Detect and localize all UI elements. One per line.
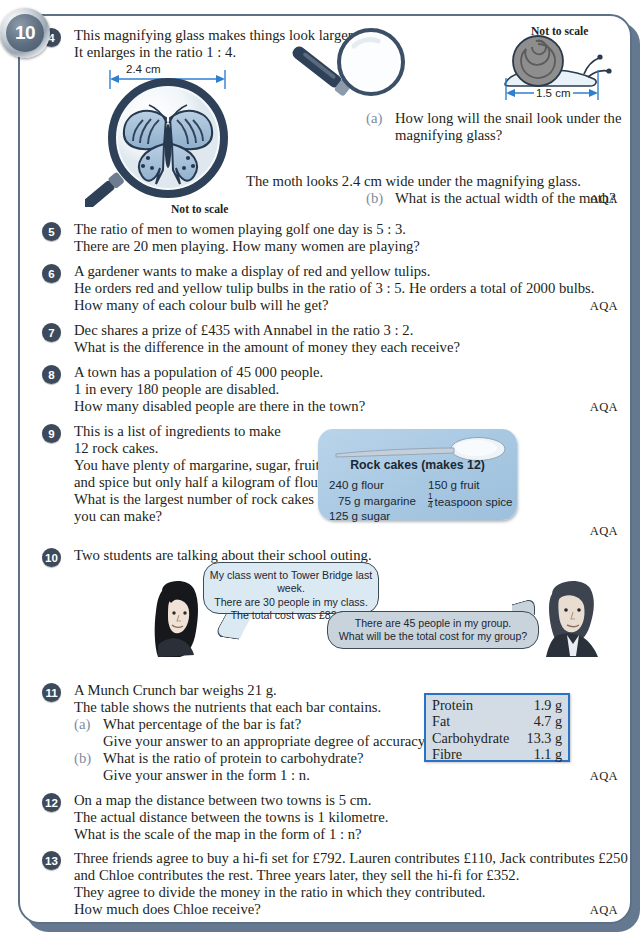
question-6-exam-board: AQA (590, 299, 618, 314)
nutrient-value: 1.9 g (534, 697, 562, 713)
question-11-part-a-label: (a) (74, 716, 90, 733)
recipe-item-fruit: 150 g fruit (428, 477, 513, 493)
question-number-13: 13 (42, 851, 61, 870)
question-13-line-3: They agree to divide the money in the ra… (74, 884, 486, 901)
butterfly-dimension-label: 2.4 cm (126, 63, 161, 75)
boy-portrait (540, 572, 600, 658)
question-12-line-1: On a map the distance between two towns … (74, 792, 371, 809)
question-4-part-b-line-1: What is the actual width of the moth? (395, 190, 616, 207)
recipe-item-spice: 1 4 teaspoon spice (428, 493, 513, 510)
question-11-part-b-line-2: Give your answer in the form 1 : n. (103, 767, 310, 784)
table-row: Protein 1.9 g (426, 697, 568, 713)
question-number-9: 9 (42, 424, 61, 443)
question-9-line-5: What is the largest number of rock cakes (74, 491, 314, 508)
rock-cakes-recipe-card: Rock cakes (makes 12) 240 g flour 75 g m… (318, 429, 517, 520)
question-4-part-a-line-2: magnifying glass? (395, 127, 502, 144)
nutrient-name: Fat (432, 713, 450, 729)
recipe-right-column: 150 g fruit 1 4 teaspoon spice (428, 477, 513, 510)
question-4-part-b-label: (b) (366, 190, 383, 207)
nutrient-name: Carbohydrate (432, 730, 509, 746)
question-9-line-3: You have plenty of margarine, sugar, fru… (74, 457, 320, 474)
question-9-exam-board: AQA (590, 524, 618, 539)
question-6-line-2: He orders red and yellow tulip bulbs in … (74, 280, 594, 297)
question-8-exam-board: AQA (590, 400, 618, 415)
question-9-line-1: This is a list of ingredients to make (74, 423, 281, 440)
recipe-spice-text: teaspoon spice (435, 495, 513, 508)
nutrient-value: 13.3 g (527, 730, 562, 746)
quarter-fraction: 1 4 (428, 493, 433, 510)
question-11-exam-board: AQA (590, 769, 618, 784)
question-4-moth-line: The moth looks 2.4 cm wide under the mag… (246, 173, 581, 190)
question-number-7: 7 (42, 323, 61, 342)
speech-bubble-girl: My class went to Tower Bridge last week.… (203, 562, 379, 614)
question-12-line-3: What is the scale of the map in the form… (74, 826, 362, 843)
question-4-exam-board: AQA (590, 192, 618, 207)
question-11-part-b-line-1: What is the ratio of protein to carbohyd… (103, 750, 364, 767)
recipe-left-column: 240 g flour 75 g margarine 125 g sugar (329, 477, 416, 524)
page-number-label: 10 (6, 14, 44, 52)
page-number-medallion: 10 (0, 8, 50, 58)
recipe-item-sugar: 125 g sugar (329, 508, 416, 524)
question-13-line-1: Three friends agree to buy a hi-fi set f… (74, 850, 628, 867)
question-8-line-2: 1 in every 180 people are disabled. (74, 381, 279, 398)
question-11-part-a-line-2: Give your answer to an appropriate degre… (103, 733, 428, 750)
question-13-line-2: and Chloe contributes the rest. Three ye… (74, 867, 519, 884)
question-5-line-1: The ratio of men to women playing golf o… (74, 221, 406, 238)
nutrient-name: Protein (432, 697, 473, 713)
question-11-line-1: A Munch Crunch bar weighs 21 g. (74, 682, 277, 699)
fraction-numerator: 1 (428, 493, 433, 501)
table-row: Fibre 1.1 g (426, 746, 568, 762)
question-12-line-2: The actual distance between the towns is… (74, 809, 388, 826)
nutrition-table: Protein 1.9 g Fat 4.7 g Carbohydrate 13.… (424, 693, 570, 762)
question-9-line-2: 12 rock cakes. (74, 440, 158, 457)
table-row: Fat 4.7 g (426, 713, 568, 729)
question-number-8: 8 (42, 365, 61, 384)
butterfly-magnifier-figure (85, 62, 265, 207)
snail-not-to-scale-note: Not to scale (531, 25, 588, 38)
bubble-girl-line-1: My class went to Tower Bridge last week. (204, 569, 378, 596)
question-number-6: 6 (42, 264, 61, 283)
recipe-item-flour: 240 g flour (329, 477, 416, 493)
bubble-boy-line-2: What will be the total cost for my group… (328, 630, 538, 643)
question-number-5: 5 (42, 222, 61, 241)
question-7-line-1: Dec shares a prize of £435 with Annabel … (74, 322, 413, 339)
question-6-line-3: How many of each colour bulb will he get… (74, 297, 329, 314)
question-13-line-4: How much does Chloe receive? (74, 901, 261, 918)
question-number-12: 12 (42, 793, 61, 812)
butterfly-not-to-scale-note: Not to scale (171, 203, 228, 216)
recipe-item-margarine: 75 g margarine (329, 493, 416, 509)
bubble-girl-line-2: There are 30 people in my class. (204, 596, 378, 609)
question-number-11: 11 (42, 683, 61, 702)
question-6-line-1: A gardener wants to make a display of re… (74, 263, 431, 280)
fraction-denominator: 4 (428, 501, 433, 510)
question-11-line-2: The table shows the nutrients that each … (74, 699, 381, 716)
girl-portrait (148, 575, 206, 658)
question-4-line-2: It enlarges in the ratio 1 : 4. (74, 44, 236, 61)
question-11-part-a-line-1: What percentage of the bar is fat? (103, 716, 301, 733)
nutrient-value: 1.1 g (534, 746, 562, 762)
question-9-line-4: and spice but only half a kilogram of fl… (74, 474, 326, 491)
question-number-10: 10 (42, 548, 61, 567)
textbook-page: 10 4 This magnifying glass makes things … (0, 0, 640, 932)
question-9-line-6: you can make? (74, 508, 162, 525)
question-4-part-a-label: (a) (366, 110, 382, 127)
magnifying-glass-figure (288, 22, 418, 117)
question-8-line-3: How many disabled people are there in th… (74, 398, 365, 415)
nutrient-value: 4.7 g (534, 713, 562, 729)
question-13-exam-board: AQA (590, 903, 618, 918)
nutrient-name: Fibre (432, 746, 462, 762)
table-row: Carbohydrate 13.3 g (426, 730, 568, 746)
question-4-part-a-line-1: How long will the snail look under the (395, 110, 621, 127)
recipe-title: Rock cakes (makes 12) (318, 458, 517, 472)
bubble-boy-line-1: There are 45 people in my group. (328, 617, 538, 630)
snail-dimension-label: 1.5 cm (534, 87, 573, 99)
question-8-line-1: A town has a population of 45 000 people… (74, 364, 323, 381)
question-7-line-2: What is the difference in the amount of … (74, 339, 460, 356)
question-11-part-b-label: (b) (74, 750, 91, 767)
question-5-line-2: There are 20 men playing. How many women… (74, 238, 420, 255)
speech-bubble-boy: There are 45 people in my group. What wi… (327, 611, 539, 649)
